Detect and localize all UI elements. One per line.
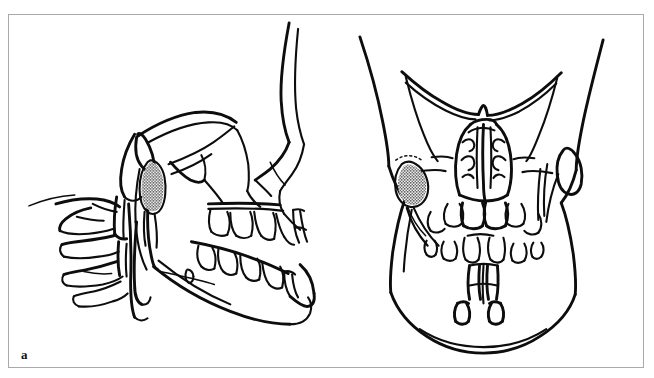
panel-label: a	[21, 348, 28, 361]
frontal-skull-view	[360, 36, 603, 352]
figure-illustration-canvas	[9, 15, 643, 367]
lateral-skull-view	[29, 22, 314, 323]
cropped-text-remnant	[64, 0, 82, 5]
figure-root: a	[0, 0, 654, 378]
figure-frame: a	[8, 14, 644, 368]
